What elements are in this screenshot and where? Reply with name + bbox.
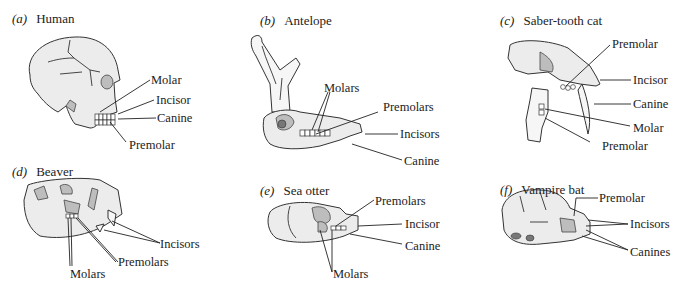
panel-name: Human [36, 11, 74, 26]
beaver-skull-drawing [24, 178, 160, 266]
label-incisors: Incisors [630, 218, 670, 231]
panel-title: (e)Sea otter [260, 183, 329, 199]
panel-letter: (c) [500, 13, 514, 28]
label-molars: Molars [70, 268, 105, 281]
panel-letter: (d) [12, 164, 27, 179]
panel-name: Beaver [36, 164, 73, 179]
label-incisors: Incisors [160, 238, 200, 251]
human-skull-drawing [29, 37, 156, 142]
saber-tooth-cat-skull-drawing [508, 41, 631, 142]
label-canine: Canine [405, 240, 440, 253]
label-premolar: Premolar [599, 192, 645, 205]
label-canine: Canine [404, 155, 439, 168]
panel-letter: (e) [260, 183, 274, 198]
label-molars: Molars [324, 82, 359, 95]
label-premolars: Premolars [383, 101, 434, 114]
label-premolars: Premolars [118, 256, 169, 269]
label-canine: Canine [157, 112, 192, 125]
label-incisor: Incisor [156, 94, 191, 107]
panel-name: Sea otter [283, 183, 329, 198]
label-canine: Canine [633, 98, 668, 111]
panel-name: Antelope [284, 13, 332, 28]
label-premolar: Premolar [129, 139, 175, 152]
panel-title: (a)Human [12, 11, 74, 27]
panel-name: Saber-tooth cat [523, 13, 602, 28]
panel-letter: (f) [500, 182, 512, 197]
label-molars: Molars [333, 268, 368, 281]
label-premolar-upper: Premolar [612, 38, 658, 51]
label-premolar-lower: Premolar [602, 140, 648, 153]
label-molar: Molar [633, 122, 664, 135]
label-incisor: Incisor [633, 74, 668, 87]
antelope-skull-drawing [251, 35, 402, 160]
label-premolars: Premolars [375, 195, 426, 208]
panel-letter: (b) [260, 13, 275, 28]
panel-title: (c)Saber-tooth cat [500, 13, 602, 29]
label-incisor: Incisor [405, 218, 440, 231]
label-molar: Molar [151, 74, 182, 87]
sea-otter-skull-drawing [268, 200, 402, 272]
panel-letter: (a) [12, 11, 27, 26]
label-incisors: Incisors [400, 128, 440, 141]
panel-title: (f)Vampire bat [500, 182, 584, 198]
panel-title: (d)Beaver [12, 164, 73, 180]
label-canines: Canines [630, 246, 670, 259]
skull-illustrations [0, 0, 688, 290]
panel-name: Vampire bat [521, 182, 584, 197]
panel-title: (b)Antelope [260, 13, 332, 29]
